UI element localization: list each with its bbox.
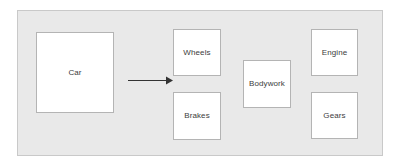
diagram-node-brakes[interactable]: Brakes — [173, 92, 221, 140]
diagram-canvas: Car Wheels Brakes Bodywork Engine Gears — [0, 0, 399, 168]
diagram-node-gears[interactable]: Gears — [311, 92, 358, 139]
diagram-node-wheels-label: Wheels — [183, 49, 210, 57]
diagram-node-car[interactable]: Car — [36, 32, 114, 113]
diagram-node-bodywork-label: Bodywork — [249, 80, 285, 88]
diagram-node-engine-label: Engine — [322, 49, 348, 57]
diagram-node-brakes-label: Brakes — [184, 112, 210, 120]
diagram-node-engine[interactable]: Engine — [311, 29, 358, 76]
diagram-node-wheels[interactable]: Wheels — [173, 29, 221, 76]
diagram-node-car-label: Car — [68, 69, 81, 77]
diagram-node-gears-label: Gears — [323, 112, 345, 120]
diagram-node-bodywork[interactable]: Bodywork — [243, 60, 291, 108]
